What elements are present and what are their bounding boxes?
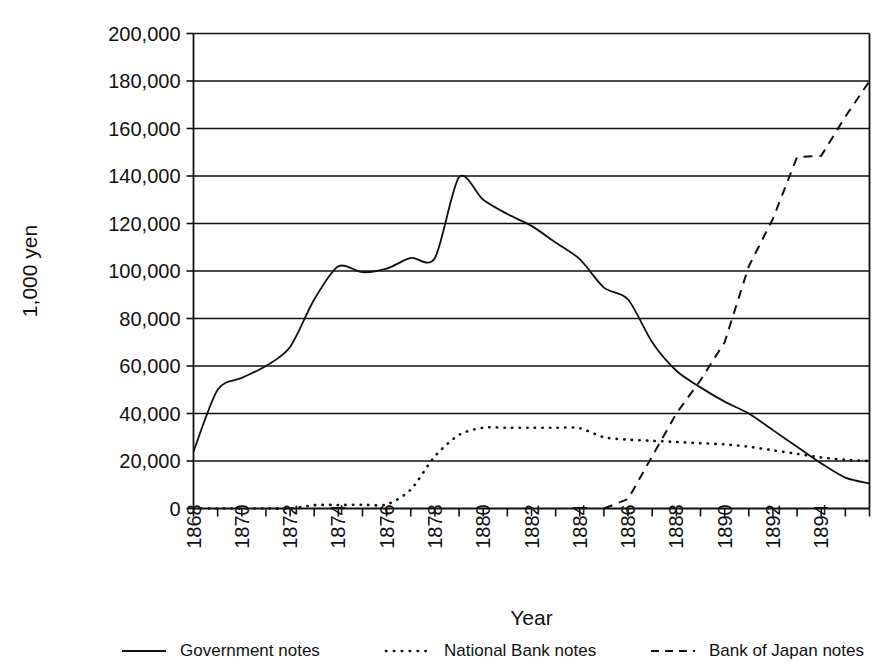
data-series-group xyxy=(194,81,870,509)
x-axis-title: Year xyxy=(510,606,552,629)
y-tick-label: 140,000 xyxy=(108,165,180,187)
series-line-bank-of-japan-notes xyxy=(604,81,870,509)
y-tick-label: 0 xyxy=(169,498,180,520)
x-tick-label: 1884 xyxy=(569,504,591,549)
x-tick-label: 1888 xyxy=(665,504,687,549)
y-tick-label: 100,000 xyxy=(108,260,180,282)
x-tick-label: 1892 xyxy=(762,504,784,549)
x-tick-label: 1870 xyxy=(231,504,253,549)
y-tick-label: 60,000 xyxy=(119,355,180,377)
y-tick-label: 40,000 xyxy=(119,403,180,425)
x-tick-label: 1868 xyxy=(183,504,205,549)
x-tick-label: 1894 xyxy=(810,504,832,549)
x-tick-label: 1878 xyxy=(424,504,446,549)
x-tick-label: 1872 xyxy=(279,504,301,549)
y-axis-title: 1,000 yen xyxy=(18,225,41,317)
y-tick-label: 80,000 xyxy=(119,308,180,330)
chart-legend: Government notesNational Bank notesBank … xyxy=(122,641,864,660)
y-tick-label: 160,000 xyxy=(108,118,180,140)
x-tick-label: 1886 xyxy=(617,504,639,549)
x-tick-label: 1880 xyxy=(472,504,494,549)
chart-figure: 020,00040,00060,00080,000100,000120,0001… xyxy=(0,0,891,672)
x-tick-label: 1882 xyxy=(521,504,543,549)
y-tick-label: 20,000 xyxy=(119,450,180,472)
y-axis-ticks xyxy=(187,34,194,509)
chart-canvas: 020,00040,00060,00080,000100,000120,0001… xyxy=(0,0,891,672)
y-axis-tick-labels: 020,00040,00060,00080,000100,000120,0001… xyxy=(108,23,180,520)
y-tick-label: 120,000 xyxy=(108,213,180,235)
gridlines xyxy=(194,34,870,462)
series-line-national-bank-notes xyxy=(194,427,870,508)
legend-label: Government notes xyxy=(180,641,320,660)
x-tick-label: 1876 xyxy=(376,504,398,549)
line-chart: 020,00040,00060,00080,000100,000120,0001… xyxy=(0,0,891,672)
x-tick-label: 1874 xyxy=(327,504,349,549)
series-line-government-notes xyxy=(194,176,870,484)
y-tick-label: 200,000 xyxy=(108,23,180,45)
x-tick-label: 1890 xyxy=(714,504,736,549)
y-tick-label: 180,000 xyxy=(108,70,180,92)
legend-label: National Bank notes xyxy=(444,641,596,660)
legend-label: Bank of Japan notes xyxy=(709,641,864,660)
